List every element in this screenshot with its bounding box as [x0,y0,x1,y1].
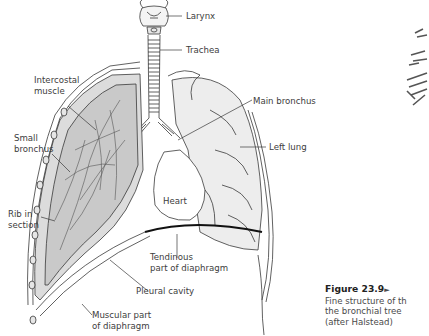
label-left-lung: Left lung [269,142,307,152]
right-lung-shape [28,62,150,324]
label-small-bronchus-2: bronchus [14,144,54,154]
label-rib-1: Rib in [8,209,32,219]
figure-number: Figure 23.9 [325,283,384,294]
figure-arrow-icon: ► [384,286,389,294]
label-muscular-2: of diaphragm [92,321,150,331]
label-muscular-1: Muscular part [92,310,151,320]
label-intercostal-muscle-1: Intercostal [34,75,79,85]
label-main-bronchus: Main bronchus [253,96,316,106]
caption-line-2: the bronchial tree [325,306,407,317]
label-rib-2: section [8,220,39,230]
label-tendinous-2: part of diaphragm [150,263,228,273]
label-pleural-cavity: Pleural cavity [136,286,194,296]
caption-line-3: (after Halstead) [325,317,407,328]
label-tendinous-1: Tendinous [150,252,193,262]
label-larynx: Larynx [186,11,215,21]
label-trachea: Trachea [186,45,220,55]
label-intercostal-muscle-2: muscle [34,86,65,96]
caption-line-1: Fine structure of th [325,296,407,307]
figure-caption: Figure 23.9► Fine structure of th the br… [325,284,407,327]
bronchial-tree-fragment [405,25,429,120]
label-heart: Heart [163,196,187,206]
larynx-shape [140,0,169,34]
label-small-bronchus-1: Small [14,133,38,143]
